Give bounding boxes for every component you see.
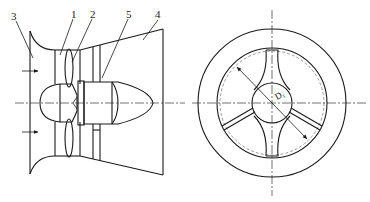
axial-fan-diagram: 3 1 2 5 4 D₁ <box>0 0 370 202</box>
leader-5 <box>102 19 128 78</box>
diameter-label: D₁ <box>273 88 286 101</box>
leader-4 <box>143 20 158 40</box>
strut-right <box>289 108 322 130</box>
callout-4: 4 <box>155 8 161 20</box>
callout-3: 3 <box>11 10 17 22</box>
inlet-bell <box>30 31 55 174</box>
callout-1: 1 <box>71 8 77 20</box>
strut-left <box>222 108 255 130</box>
side-view: 3 1 2 5 4 <box>11 8 185 175</box>
blade-top <box>65 49 73 87</box>
callout-2: 2 <box>90 8 96 20</box>
blade-bottom <box>65 119 73 157</box>
leader-2 <box>72 19 92 62</box>
callout-5: 5 <box>126 8 132 20</box>
front-view: D₁ <box>192 10 368 196</box>
diffuser <box>80 29 163 175</box>
